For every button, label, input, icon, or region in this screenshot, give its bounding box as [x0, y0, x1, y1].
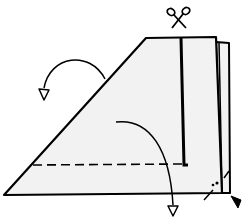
fold-arrow-down-head — [168, 206, 178, 216]
dashed-fold-line — [33, 164, 183, 165]
fold-arrow-left — [44, 60, 105, 88]
folding-diagram — [0, 0, 247, 221]
corner-pointer-icon — [231, 196, 241, 208]
paper-main — [4, 37, 222, 195]
scissors-icon — [166, 6, 191, 28]
fold-arrow-left-head — [39, 89, 49, 100]
